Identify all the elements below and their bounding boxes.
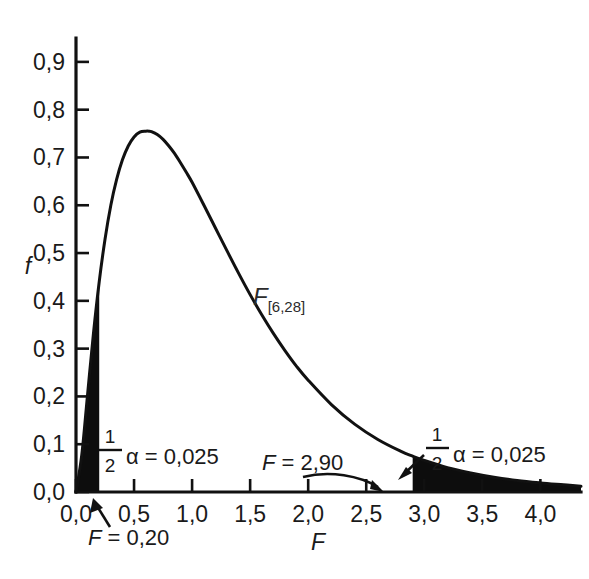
curve-label-subscript: [6,28] (268, 298, 306, 315)
y-tick-label: 0,1 (33, 431, 65, 457)
lower-critical-value-label: F = 0,20 (88, 525, 169, 550)
y-tick-label: 0,3 (33, 336, 65, 362)
y-tick-label: 0,6 (33, 192, 65, 218)
y-tick-label: 0,2 (33, 383, 65, 409)
x-axis-title: F (311, 529, 327, 555)
x-tick-label: 1,0 (176, 501, 208, 527)
upper-alpha-text: α = 0,025 (453, 442, 546, 467)
y-tick-label: 0,4 (33, 288, 65, 314)
x-axis-tick-labels: 0,00,51,01,52,02,53,03,54,0 (60, 501, 556, 527)
lower-critical-value-rest: = 0,20 (101, 525, 169, 550)
y-tick-label: 0,7 (33, 144, 65, 170)
density-curve (76, 131, 581, 492)
x-tick-label: 0,0 (60, 501, 92, 527)
x-tick-label: 1,5 (234, 501, 266, 527)
x-tick-label: 3,5 (466, 501, 498, 527)
upper-critical-value-arrowhead (370, 480, 384, 492)
upper-critical-value-label: F = 2,90 (262, 450, 343, 475)
f-distribution-chart: 0,00,10,20,30,40,50,60,70,80,9 0,00,51,0… (0, 0, 589, 579)
chart-svg: 0,00,10,20,30,40,50,60,70,80,9 0,00,51,0… (0, 0, 589, 579)
x-tick-label: 2,5 (350, 501, 382, 527)
curve-label-main: F (253, 283, 269, 310)
upper-critical-value-rest: = 2,90 (275, 450, 343, 475)
x-tick-label: 0,5 (118, 501, 150, 527)
upper-alpha-numerator: 1 (432, 424, 443, 445)
lower-alpha-annotation: 1 2 α = 0,025 (99, 426, 219, 476)
lower-alpha-text: α = 0,025 (126, 444, 219, 469)
curve-label: F[6,28] (253, 283, 305, 315)
lower-alpha-denominator: 2 (105, 455, 116, 476)
y-tick-label: 0,9 (33, 49, 65, 75)
y-tick-label: 0,8 (33, 97, 65, 123)
x-tick-label: 2,0 (292, 501, 324, 527)
lower-alpha-numerator: 1 (105, 426, 116, 447)
y-tick-label: 0,5 (33, 240, 65, 266)
upper-alpha-denominator: 2 (432, 453, 443, 474)
x-tick-label: 4,0 (524, 501, 556, 527)
y-axis-tick-labels: 0,00,10,20,30,40,50,60,70,80,9 (33, 49, 65, 505)
x-tick-label: 3,0 (408, 501, 440, 527)
